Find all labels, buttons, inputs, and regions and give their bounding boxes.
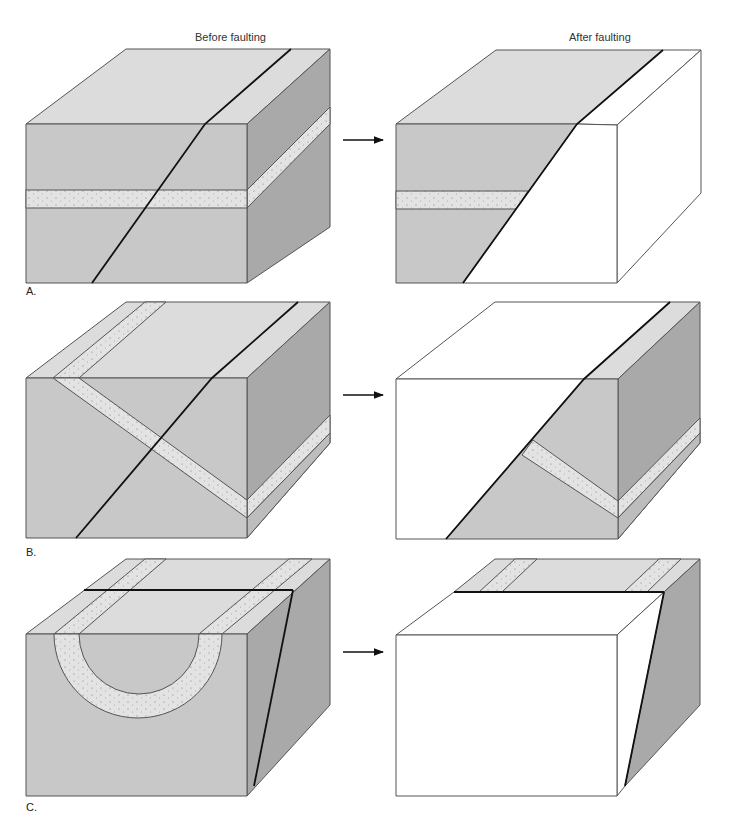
block-a-before: [26, 49, 330, 283]
block-b-after: [396, 302, 700, 539]
block-c-after: [396, 559, 700, 796]
block-a-after: [336, 50, 701, 283]
fault-diagram: [0, 0, 730, 824]
block-b-before: [26, 302, 330, 538]
block-c-before: [26, 559, 330, 796]
